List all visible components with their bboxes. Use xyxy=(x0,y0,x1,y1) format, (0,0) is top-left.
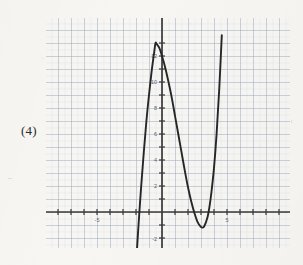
x-tick-label: 5 xyxy=(226,217,229,223)
y-tick-label: 10 xyxy=(151,79,157,85)
graph-figure: 12 10 8 6 4 2 -2 -5 5 xyxy=(0,0,303,265)
y-tick-label: -2 xyxy=(152,236,157,242)
y-tick-label: 2 xyxy=(154,183,157,189)
y-tick-label: 8 xyxy=(154,105,157,111)
x-tick-label: -5 xyxy=(95,217,100,223)
y-tick-label: 4 xyxy=(154,157,157,163)
y-tick-label: 6 xyxy=(154,131,157,137)
